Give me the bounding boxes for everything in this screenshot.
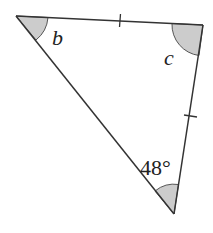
angle-label-48: 48°	[140, 155, 171, 180]
angle-label-b: b	[52, 25, 63, 50]
tick-mark-right	[184, 115, 197, 117]
tick-mark-top	[120, 14, 121, 27]
side-left	[16, 16, 174, 214]
side-right	[174, 25, 203, 214]
triangle-diagram: b c 48°	[0, 0, 213, 233]
angle-label-c: c	[164, 45, 174, 70]
